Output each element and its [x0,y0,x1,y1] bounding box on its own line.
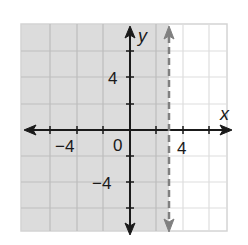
x-tick-label-0: 0 [113,136,122,155]
x-tick-label-4: 4 [177,139,186,158]
x-axis-label: x [219,104,230,124]
shaded-region [21,24,169,231]
y-tick-label-neg4: −4 [92,174,111,193]
y-axis-label: y [136,26,148,46]
x-tick-label-neg4: −4 [55,137,74,156]
y-tick-label-4: 4 [108,69,117,88]
coordinate-plane: y x −4 0 4 4 −4 [0,0,248,245]
